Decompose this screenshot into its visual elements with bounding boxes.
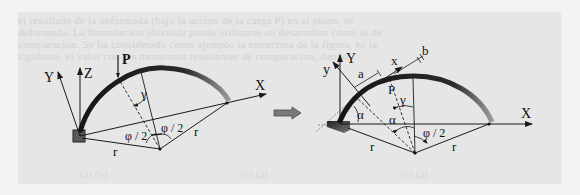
right-arrow-icon [274,107,301,119]
label-axis-z: Z [84,66,93,81]
label-axis-Y: Y [346,51,356,66]
label-axis-X: X [521,106,531,121]
vertical-bisector [413,78,415,153]
label-radius-left: r [113,144,118,159]
right-diagram: Y y a x b P γ α α φ / 2 X r r [316,43,532,155]
label-local-x: x [391,53,398,68]
label-load-p: P [388,82,395,97]
arch-center-point [413,151,416,154]
y-axis [58,72,80,136]
transition-arrow [274,107,301,119]
radius-line-left [348,128,415,153]
label-dim-b: b [422,43,429,58]
label-half-angle-left: φ / 2 [125,129,147,143]
arch-diagrams: Y Z P X γ φ / 2 φ / 2 r r [0,0,580,195]
arch-beam [80,68,229,132]
radius-line-left [82,138,160,149]
label-gamma: γ [140,86,147,101]
fixed-support-icon [327,121,350,133]
label-half-angle-right: φ / 2 [161,121,183,135]
label-alpha-center: α [389,112,396,127]
label-radius-left: r [370,139,375,154]
left-diagram: Y Z P X γ φ / 2 φ / 2 r r [44,52,266,159]
alpha-arc-center [397,126,414,130]
support-radius-dashed [357,98,415,153]
arch-end-point [487,122,490,125]
label-axis-y: Y [44,70,54,85]
label-radius-right: r [194,124,199,139]
label-local-y: y [323,62,330,77]
dimension-b-line [394,56,423,74]
label-gamma: γ [399,92,406,107]
label-dim-a: a [358,66,364,81]
label-radius-right: r [452,139,457,154]
label-load-p: P [122,52,131,67]
label-axis-x: X [255,78,265,93]
label-alpha-support: α [357,107,364,122]
label-half-angle: φ / 2 [423,126,445,140]
